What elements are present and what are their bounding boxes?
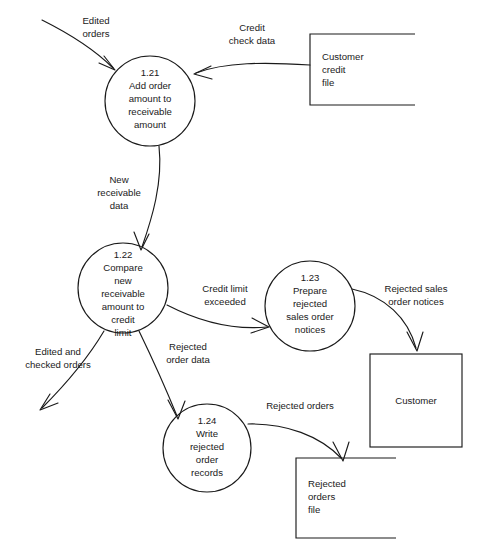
data-store-label-line-2: file <box>322 77 334 88</box>
process-label-line-4: records <box>191 467 223 478</box>
process-1-22: 1.22 Compare new receivable amount to cr… <box>78 243 168 338</box>
process-label-line-4: amount <box>134 119 166 130</box>
arrow-head-credit-check-data <box>194 66 212 79</box>
flow-label-line-0: Rejected orders <box>266 400 334 411</box>
process-label-line-0: 1.23 <box>301 272 320 283</box>
process-label-line-2: new <box>114 275 132 286</box>
flow-label-line-1: check data <box>229 35 276 46</box>
data-store-label-line-1: orders <box>308 491 335 502</box>
process-label-line-6: limit <box>114 327 131 338</box>
process-1-21: 1.21 Add order amount to receivable amou… <box>105 56 195 146</box>
flow-label-line-0: Credit limit <box>202 283 248 294</box>
external-entity-customer: Customer <box>370 354 462 447</box>
data-store-label-line-1: credit <box>322 64 346 75</box>
flow-edited-and-checked-orders <box>40 331 104 410</box>
flow-label-edited-orders: Edited orders <box>82 15 109 39</box>
flow-label-edited-and-checked-orders: Edited and checked orders <box>25 346 91 370</box>
flow-label-line-1: checked orders <box>25 359 91 370</box>
data-store-label-line-0: Customer <box>322 51 364 62</box>
flow-label-new-receivable-data: New receivable data <box>97 174 141 211</box>
flow-label-line-1: exceeded <box>204 296 246 307</box>
flow-label-rejected-sales-order-notices: Rejected sales order notices <box>385 283 448 307</box>
data-store-label-line-0: Rejected <box>308 478 346 489</box>
process-1-24: 1.24 Write rejected order records <box>163 404 251 492</box>
flow-line-credit-check-data <box>196 63 310 73</box>
flow-label-line-0: Rejected <box>169 341 207 352</box>
process-label-line-3: receivable <box>128 106 172 117</box>
flow-label-line-1: orders <box>82 28 109 39</box>
process-label-line-1: Add order <box>129 80 172 91</box>
process-label-line-2: rejected <box>293 298 327 309</box>
flow-credit-limit-exceeded <box>167 305 269 333</box>
flow-credit-check-data <box>194 63 310 79</box>
flow-label-rejected-orders: Rejected orders <box>266 400 334 411</box>
process-label-line-1: Compare <box>103 262 142 273</box>
process-label-line-3: sales order <box>286 311 334 322</box>
process-label-line-0: 1.21 <box>141 67 160 78</box>
flow-line-new-receivable-data <box>142 146 160 247</box>
flow-line-rejected-orders <box>248 424 341 458</box>
flow-line-credit-limit-exceeded <box>167 305 267 328</box>
flow-label-line-1: receivable <box>97 187 141 198</box>
flow-label-line-1: order data <box>166 354 210 365</box>
data-flow-diagram: Customer credit file Rejected orders fil… <box>0 0 478 547</box>
process-label-line-1: Prepare <box>293 285 327 296</box>
process-label-line-4: notices <box>295 324 326 335</box>
flow-rejected-orders <box>248 424 349 461</box>
flow-label-line-0: Edited and <box>35 346 81 357</box>
data-store-customer-credit-file: Customer credit file <box>310 34 415 105</box>
process-label-line-0: 1.22 <box>114 249 133 260</box>
flow-label-rejected-order-data: Rejected order data <box>166 341 210 365</box>
external-entity-label-customer: Customer <box>395 395 437 406</box>
data-store-rejected-orders-file: Rejected orders file <box>296 458 396 538</box>
arrow-head-credit-limit-exceeded <box>251 318 269 333</box>
process-label-line-5: credit <box>111 314 135 325</box>
process-label-line-3: order <box>196 454 219 465</box>
flow-label-line-0: Edited <box>82 15 109 26</box>
process-label-line-0: 1.24 <box>198 415 217 426</box>
data-store-label-line-2: file <box>308 504 320 515</box>
process-label-line-1: Write <box>196 428 218 439</box>
flow-label-line-2: data <box>110 200 129 211</box>
process-label-line-4: amount to <box>102 301 145 312</box>
flow-label-line-0: Rejected sales <box>385 283 448 294</box>
flow-new-receivable-data <box>134 146 160 250</box>
process-label-line-2: rejected <box>190 441 224 452</box>
diagram-canvas: Customer credit file Rejected orders fil… <box>0 0 478 547</box>
flow-label-credit-limit-exceeded: Credit limit exceeded <box>202 283 248 307</box>
flow-label-line-0: Credit <box>239 22 265 33</box>
flow-label-line-0: New <box>109 174 128 185</box>
flow-label-credit-check-data: Credit check data <box>229 22 276 46</box>
process-label-line-3: receivable <box>101 288 145 299</box>
process-label-line-2: amount to <box>129 93 172 104</box>
flow-label-line-1: order notices <box>388 296 444 307</box>
arrow-head-rejected-sales-order-notices <box>407 332 423 351</box>
process-1-23: 1.23 Prepare rejected sales order notice… <box>265 261 355 351</box>
